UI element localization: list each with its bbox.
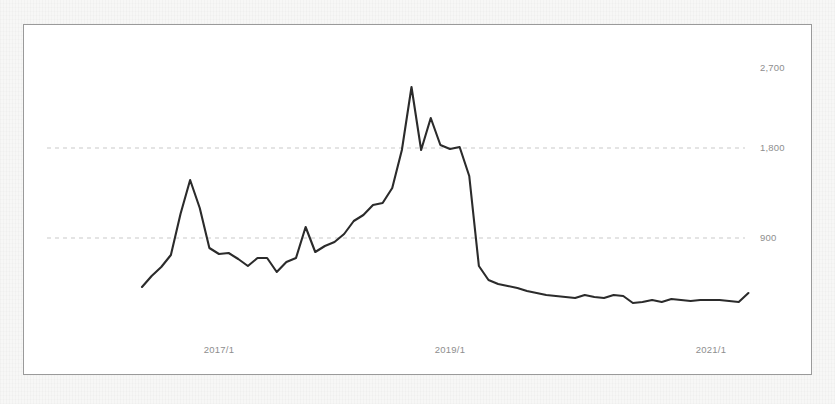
chart-plot-frame (23, 24, 812, 375)
y-axis-label-900: 900 (760, 232, 776, 243)
x-axis-label-2017-1: 2017/1 (204, 344, 234, 355)
y-axis-label-2700: 2,700 (760, 62, 785, 73)
y-axis-label-1800: 1,800 (760, 142, 785, 153)
x-axis-label-2021-1: 2021/1 (696, 344, 726, 355)
x-axis-label-2019-1: 2019/1 (435, 344, 465, 355)
